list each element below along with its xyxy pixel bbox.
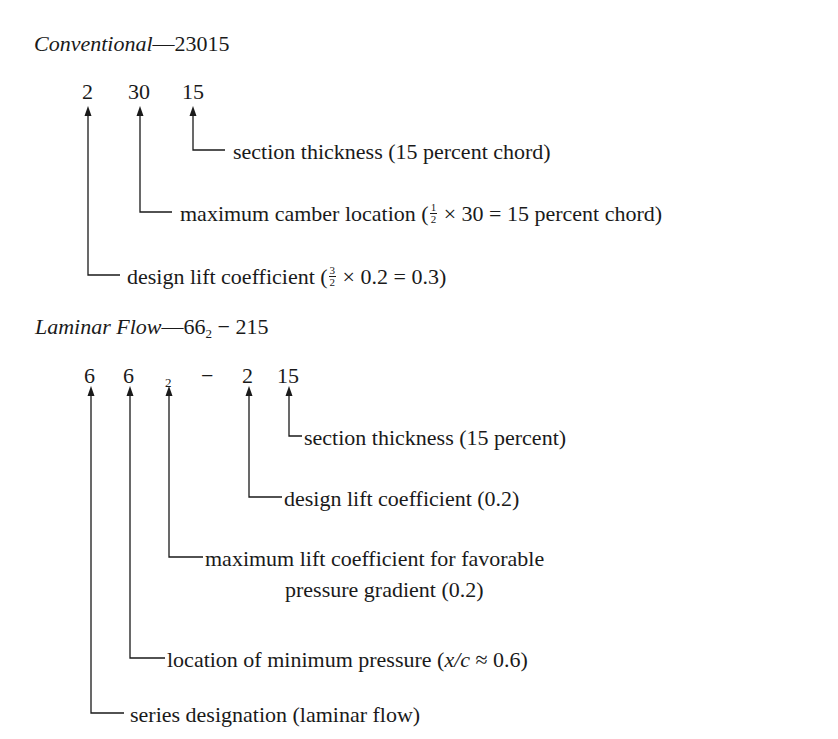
lam-series-label: series designation (laminar flow) bbox=[130, 704, 420, 726]
lam-thickness-label: section thickness (15 percent) bbox=[304, 427, 566, 449]
conventional-label: Conventional bbox=[34, 31, 153, 56]
conventional-heading: Conventional—23015 bbox=[34, 33, 230, 55]
conv-thickness-label: section thickness (15 percent chord) bbox=[233, 141, 551, 163]
laminar-label: Laminar Flow bbox=[35, 314, 162, 339]
conv-camber-label: maximum camber location (12 × 30 = 15 pe… bbox=[180, 203, 662, 227]
heading-dash: — bbox=[162, 314, 184, 339]
lam-max-lift-label-1: maximum lift coefficient for favorable bbox=[205, 548, 544, 570]
lam-dash: − bbox=[201, 365, 213, 387]
laminar-heading: Laminar Flow—662 − 215 bbox=[35, 316, 268, 340]
lam-digit-6a: 6 bbox=[84, 365, 95, 387]
fraction-three-halves: 32 bbox=[329, 265, 337, 288]
arrow-thickness-lam bbox=[289, 393, 302, 436]
arrow-thickness-conv bbox=[193, 113, 225, 150]
lam-max-lift-label-2: pressure gradient (0.2) bbox=[285, 579, 484, 601]
conv-digit-2: 2 bbox=[82, 81, 93, 103]
lam-min-pressure-label: location of minimum pressure (x/c ≈ 0.6) bbox=[167, 649, 528, 671]
lam-digit-6b: 6 bbox=[123, 365, 134, 387]
conv-digit-30: 30 bbox=[128, 81, 150, 103]
lam-digit-2: 2 bbox=[242, 365, 253, 387]
conv-lift-label: design lift coefficient (32 × 0.2 = 0.3) bbox=[127, 266, 446, 290]
lam-digit-15: 15 bbox=[277, 365, 299, 387]
conventional-code: 23015 bbox=[175, 31, 230, 56]
lam-design-lift-label: design lift coefficient (0.2) bbox=[284, 488, 519, 510]
lam-digit-sub2: 2 bbox=[165, 376, 172, 389]
fraction-one-half: 12 bbox=[430, 202, 438, 225]
arrow-camber-conv bbox=[140, 113, 172, 212]
arrow-lift-conv bbox=[88, 113, 120, 275]
conv-digit-15: 15 bbox=[182, 81, 204, 103]
heading-dash: — bbox=[153, 31, 175, 56]
